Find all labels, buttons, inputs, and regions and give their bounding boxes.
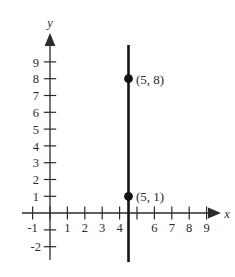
x-axis-arrow-icon (208, 208, 221, 219)
y-tick-label: 5 (33, 123, 39, 137)
y-tick-label: 6 (33, 106, 39, 120)
data-point-5-1 (124, 192, 133, 201)
y-tick-label: -2 (31, 240, 41, 254)
data-point-label-5-1: (5, 1) (136, 189, 164, 204)
x-axis-group: -1 1 2 3 4 6 7 8 9 x (22, 207, 230, 236)
y-axis-arrow-icon (45, 33, 56, 46)
y-axis-label: y (45, 16, 53, 30)
x-tick-label: 3 (99, 221, 105, 235)
x-tick-label: 6 (151, 221, 157, 235)
y-tick-label: 4 (33, 140, 40, 154)
x-axis-label: x (223, 207, 230, 221)
x-tick-label: 1 (64, 221, 70, 235)
y-tick-label: 2 (33, 173, 39, 187)
data-point-5-8 (124, 74, 133, 83)
y-tick-label: 8 (33, 72, 39, 86)
y-tick-label: 3 (33, 156, 39, 170)
x-tick-label: -1 (27, 221, 37, 235)
y-tick-label: 9 (33, 56, 39, 70)
y-tick-label: 7 (33, 89, 39, 103)
y-tick-label: 1 (33, 190, 39, 204)
x-tick-label: 7 (169, 221, 175, 235)
x-tick-label: 2 (82, 221, 88, 235)
graph-figure: -1 1 2 3 4 6 7 8 9 x (0, 0, 235, 277)
data-point-group: (5, 8) (5, 1) (124, 72, 164, 205)
x-tick-label: 8 (186, 221, 192, 235)
x-tick-label: 9 (203, 221, 209, 235)
x-tick-label: 4 (116, 221, 123, 235)
data-point-label-5-8: (5, 8) (136, 72, 164, 87)
coordinate-plane-svg: -1 1 2 3 4 6 7 8 9 x (0, 0, 235, 277)
